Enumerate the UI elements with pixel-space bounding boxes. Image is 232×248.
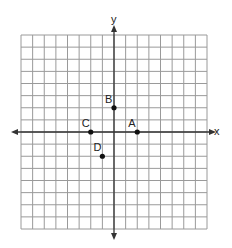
x-axis-label: x bbox=[214, 126, 220, 137]
point-d bbox=[100, 154, 105, 159]
y-axis-label: y bbox=[111, 14, 117, 25]
axes bbox=[11, 25, 216, 240]
coordinate-plane bbox=[0, 0, 232, 248]
point-label-b: B bbox=[105, 94, 112, 105]
point-label-c: C bbox=[82, 118, 90, 129]
point-a bbox=[135, 129, 140, 134]
point-label-a: A bbox=[128, 118, 135, 129]
point-b bbox=[111, 105, 116, 110]
point-c bbox=[88, 129, 93, 134]
point-label-d: D bbox=[93, 142, 101, 153]
